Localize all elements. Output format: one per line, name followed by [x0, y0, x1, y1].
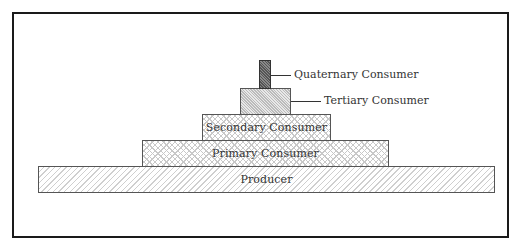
- level-quaternary-consumer-label: Quaternary Consumer: [294, 68, 419, 81]
- level-tertiary-consumer-label: Tertiary Consumer: [324, 94, 429, 107]
- level-quaternary-consumer: [259, 60, 271, 89]
- leader-line-quaternary: [271, 75, 291, 76]
- level-producer: Producer: [38, 166, 495, 193]
- level-secondary-consumer-label: Secondary Consumer: [204, 121, 329, 134]
- level-secondary-consumer: Secondary Consumer: [202, 114, 331, 141]
- level-producer-label: Producer: [238, 173, 294, 186]
- level-tertiary-consumer: [240, 88, 291, 115]
- level-primary-consumer: Primary Consumer: [142, 140, 389, 167]
- level-primary-consumer-label: Primary Consumer: [210, 147, 321, 160]
- leader-line-tertiary: [291, 101, 321, 102]
